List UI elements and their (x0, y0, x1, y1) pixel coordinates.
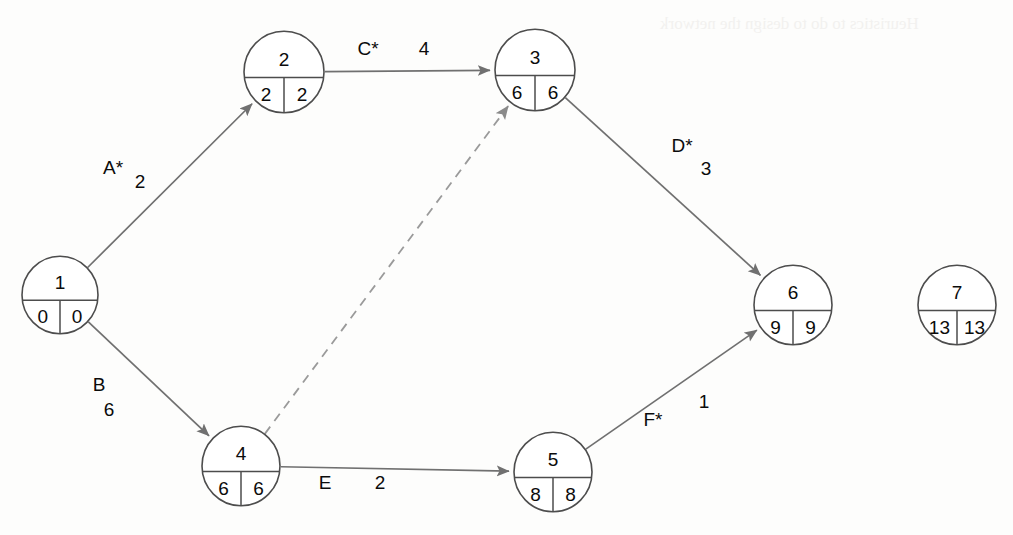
activity-duration-D: 3 (701, 159, 712, 178)
activity-label-B: B (93, 375, 106, 394)
node-4 (202, 426, 280, 506)
activity-duration-C: 4 (419, 39, 430, 58)
activity-label-E: E (319, 473, 332, 492)
node-5 (514, 432, 592, 512)
activity-edge-D (565, 98, 760, 276)
activity-duration-B: 6 (104, 400, 115, 419)
activity-label-F: F* (644, 410, 663, 429)
activity-edge-E (281, 467, 509, 471)
node-2 (244, 31, 324, 113)
activity-label-C: C* (357, 39, 378, 58)
node-6 (754, 265, 832, 345)
activity-duration-F: 1 (699, 392, 710, 411)
network-graphics (0, 0, 1013, 535)
activity-duration-E: 2 (375, 473, 386, 492)
activity-label-A: A* (103, 158, 123, 177)
activity-label-D: D* (671, 136, 692, 155)
nodes-layer (22, 29, 996, 512)
activity-edge-A (88, 104, 252, 268)
activity-edge-C (325, 70, 490, 71)
node-1 (22, 256, 98, 334)
activity-duration-A: 2 (135, 172, 146, 191)
node-3 (495, 29, 575, 111)
activity-edge-F (586, 330, 757, 449)
node-7 (918, 265, 996, 345)
dummy-activity-edge-4-3 (265, 106, 508, 434)
network-diagram-canvas: Heuristics to do to design the network A… (0, 0, 1013, 535)
